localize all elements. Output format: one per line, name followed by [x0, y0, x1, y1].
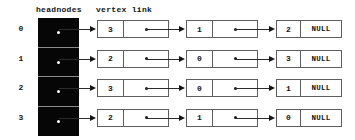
pointer-arrowhead-icon	[90, 85, 96, 91]
pointer-connector-line	[235, 59, 269, 60]
list-node: 1NULL	[276, 79, 342, 97]
node-link-null: NULL	[301, 21, 341, 37]
pointer-arrowhead-icon	[269, 56, 275, 62]
pointer-connector-line	[146, 59, 179, 60]
node-vertex-value: 1	[187, 21, 213, 37]
pointer-connector-line	[59, 88, 90, 89]
node-vertex-value: 1	[277, 80, 301, 96]
headnode-cell	[38, 48, 79, 77]
pointer-arrowhead-icon	[90, 26, 96, 32]
list-node: 3NULL	[276, 50, 342, 68]
row-index-label: 3	[14, 113, 28, 123]
list-node: 0NULL	[276, 109, 342, 127]
pointer-connector-line	[146, 118, 179, 119]
pointer-arrowhead-icon	[179, 26, 185, 32]
headnode-cell	[38, 77, 79, 106]
node-vertex-value: 2	[277, 21, 301, 37]
node-vertex-value: 0	[277, 110, 301, 126]
node-link-null: NULL	[301, 80, 341, 96]
row-index-label: 1	[14, 54, 28, 64]
adjacency-list-diagram: headnodes vertex link 0312NULL1203NULL23…	[0, 0, 355, 140]
headnode-pointer-dot	[57, 120, 60, 123]
pointer-connector-line	[59, 59, 90, 60]
node-vertex-value: 2	[98, 110, 124, 126]
headnode-cell	[38, 18, 79, 47]
pointer-connector-line	[59, 29, 90, 30]
node-vertex-value: 1	[187, 110, 213, 126]
headnode-cell	[38, 107, 79, 136]
column-header-headnodes: headnodes	[36, 5, 82, 15]
pointer-arrowhead-icon	[269, 26, 275, 32]
pointer-connector-line	[146, 29, 179, 30]
node-link-null: NULL	[301, 110, 341, 126]
pointer-connector-line	[59, 118, 90, 119]
pointer-arrowhead-icon	[179, 115, 185, 121]
row-index-label: 0	[14, 24, 28, 34]
column-header-vertex-link: vertex link	[96, 5, 152, 15]
pointer-arrowhead-icon	[90, 56, 96, 62]
pointer-connector-line	[146, 88, 179, 89]
row-index-label: 2	[14, 83, 28, 93]
pointer-arrowhead-icon	[269, 115, 275, 121]
node-vertex-value: 0	[187, 80, 213, 96]
node-link-null: NULL	[301, 51, 341, 67]
headnode-pointer-dot	[57, 31, 60, 34]
node-vertex-value: 0	[187, 51, 213, 67]
headnode-pointer-dot	[57, 90, 60, 93]
pointer-arrowhead-icon	[269, 85, 275, 91]
list-node: 2NULL	[276, 20, 342, 38]
pointer-arrowhead-icon	[179, 56, 185, 62]
pointer-arrowhead-icon	[90, 115, 96, 121]
pointer-connector-line	[235, 118, 269, 119]
headnode-separator	[38, 47, 79, 48]
pointer-arrowhead-icon	[179, 85, 185, 91]
headnode-pointer-dot	[57, 61, 60, 64]
node-vertex-value: 3	[98, 80, 124, 96]
node-vertex-value: 3	[277, 51, 301, 67]
node-vertex-value: 3	[98, 21, 124, 37]
headnode-separator	[38, 76, 79, 77]
pointer-connector-line	[235, 88, 269, 89]
node-vertex-value: 2	[98, 51, 124, 67]
headnode-separator	[38, 106, 79, 107]
pointer-connector-line	[235, 29, 269, 30]
